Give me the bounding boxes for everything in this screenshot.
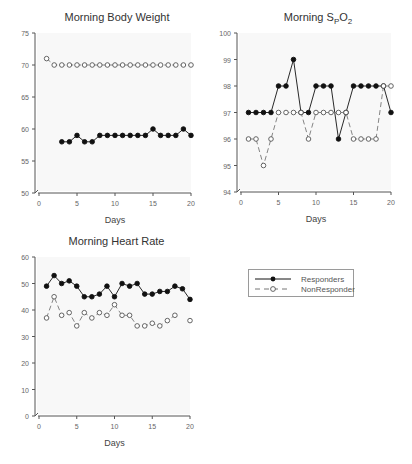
open-circle-marker-icon xyxy=(336,110,341,115)
open-circle-marker-icon xyxy=(314,110,319,115)
open-circle-marker-icon xyxy=(389,84,394,89)
open-circle-marker-icon xyxy=(246,137,251,142)
open-circle-marker-icon xyxy=(142,324,147,329)
filled-circle-marker-icon xyxy=(284,84,289,89)
filled-circle-marker-icon xyxy=(90,140,95,145)
y-tick-label: 30 xyxy=(21,334,29,341)
open-circle-marker-icon xyxy=(113,63,118,68)
filled-circle-marker-icon xyxy=(366,84,371,89)
y-tick-label: 40 xyxy=(21,307,29,314)
y-tick-label: 70 xyxy=(21,62,29,69)
y-tick-label: 65 xyxy=(21,94,29,101)
filled-circle-marker-icon xyxy=(173,284,178,289)
x-tick-label: 20 xyxy=(387,199,395,206)
filled-circle-marker-icon xyxy=(314,84,319,89)
legend-label-nonresponders: NonResponders xyxy=(301,285,355,294)
open-circle-marker-icon xyxy=(98,63,103,68)
y-tick-label: 50 xyxy=(21,281,29,288)
legend-svg: Responders NonResponders xyxy=(249,270,355,298)
open-circle-marker-icon xyxy=(150,321,155,326)
open-circle-marker-icon xyxy=(105,313,110,318)
filled-circle-marker-icon xyxy=(127,284,132,289)
y-tick-label: 98 xyxy=(223,83,231,90)
filled-circle-marker-icon xyxy=(246,110,251,115)
open-circle-marker-icon xyxy=(351,137,356,142)
open-circle-marker-icon xyxy=(90,316,95,321)
x-tick-label: 10 xyxy=(111,423,119,430)
open-circle-marker-icon xyxy=(52,63,57,68)
filled-circle-marker-icon xyxy=(261,110,266,115)
filled-circle-marker-icon xyxy=(44,284,49,289)
y-tick-label: 94 xyxy=(223,189,231,196)
filled-circle-marker-icon xyxy=(151,127,156,132)
filled-circle-marker-icon xyxy=(82,140,87,145)
x-tick-label: 0 xyxy=(37,200,41,207)
filled-circle-marker-icon xyxy=(336,137,341,142)
x-tick-label: 10 xyxy=(312,199,320,206)
filled-circle-marker-icon xyxy=(142,292,147,297)
filled-circle-marker-icon xyxy=(128,133,133,138)
chart-title: Morning Body Weight xyxy=(65,11,170,23)
open-circle-marker-icon xyxy=(127,313,132,318)
open-circle-marker-icon xyxy=(366,137,371,142)
open-circle-marker-icon xyxy=(143,63,148,68)
open-circle-marker-icon xyxy=(74,324,79,329)
filled-circle-marker-icon xyxy=(52,273,57,278)
filled-circle-marker-icon xyxy=(389,110,394,115)
open-circle-marker-icon xyxy=(189,63,194,68)
filled-circle-marker-icon xyxy=(276,84,281,89)
x-tick-label: 15 xyxy=(148,423,156,430)
filled-circle-marker-icon xyxy=(189,133,194,138)
filled-circle-marker-icon xyxy=(120,281,125,286)
filled-circle-marker-icon xyxy=(306,110,311,115)
legend-label-responders: Responders xyxy=(301,275,344,284)
open-circle-marker-icon xyxy=(90,63,95,68)
chart-body-weight-svg: Morning Body Weight50556065707505101520D… xyxy=(0,0,206,225)
open-circle-marker-icon xyxy=(158,63,163,68)
y-tick-label: 99 xyxy=(223,57,231,64)
x-tick-label: 15 xyxy=(350,199,358,206)
x-tick-label: 20 xyxy=(186,423,194,430)
filled-circle-marker-icon xyxy=(143,133,148,138)
filled-circle-marker-icon xyxy=(271,277,276,282)
open-circle-marker-icon xyxy=(321,110,326,115)
open-circle-marker-icon xyxy=(254,137,259,142)
y-tick-label: 60 xyxy=(21,126,29,133)
filled-circle-marker-icon xyxy=(98,133,103,138)
filled-circle-marker-icon xyxy=(74,284,79,289)
y-tick-label: 50 xyxy=(21,190,29,197)
x-axis-label: Days xyxy=(105,215,126,225)
x-tick-label: 5 xyxy=(75,200,79,207)
open-circle-marker-icon xyxy=(67,310,72,315)
open-circle-marker-icon xyxy=(188,318,193,323)
open-circle-marker-icon xyxy=(135,324,140,329)
legend-item-responders: Responders xyxy=(255,275,344,284)
y-tick-label: 100 xyxy=(219,30,231,37)
open-circle-marker-icon xyxy=(158,324,163,329)
open-circle-marker-icon xyxy=(97,310,102,315)
open-circle-marker-icon xyxy=(82,63,87,68)
y-tick-label: 60 xyxy=(21,254,29,261)
filled-circle-marker-icon xyxy=(113,133,118,138)
chart-heart-rate: Morning Heart Rate010203040506005101520D… xyxy=(0,230,206,464)
x-tick-label: 15 xyxy=(149,200,157,207)
open-circle-marker-icon xyxy=(52,294,57,299)
filled-circle-marker-icon xyxy=(165,289,170,294)
open-circle-marker-icon xyxy=(276,110,281,115)
open-circle-marker-icon xyxy=(166,63,171,68)
y-tick-label: 96 xyxy=(223,136,231,143)
x-tick-label: 5 xyxy=(277,199,281,206)
chart-legend: Responders NonResponders xyxy=(248,269,354,297)
open-circle-marker-icon xyxy=(59,313,64,318)
filled-circle-marker-icon xyxy=(75,133,80,138)
chart-body-weight: Morning Body Weight50556065707505101520D… xyxy=(0,0,206,225)
filled-circle-marker-icon xyxy=(158,133,163,138)
filled-circle-marker-icon xyxy=(329,84,334,89)
filled-circle-marker-icon xyxy=(120,133,125,138)
open-circle-marker-icon xyxy=(329,110,334,115)
filled-circle-marker-icon xyxy=(174,133,179,138)
open-circle-marker-icon xyxy=(299,110,304,115)
legend-item-nonresponders: NonResponders xyxy=(255,285,355,294)
open-circle-marker-icon xyxy=(151,63,156,68)
open-circle-marker-icon xyxy=(261,163,266,168)
